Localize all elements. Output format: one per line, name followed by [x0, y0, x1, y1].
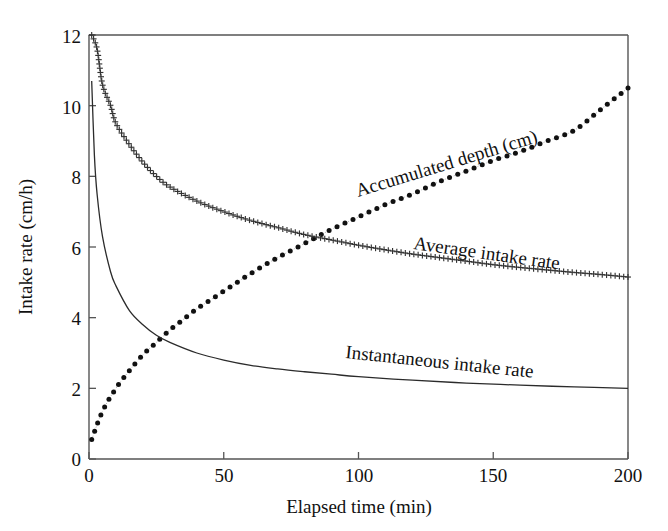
marker-dot	[303, 240, 308, 245]
y-tick-label-6: 6	[72, 238, 82, 259]
y-tick-label-12: 12	[62, 26, 81, 47]
marker-dot	[399, 196, 404, 201]
x-axis-title: Elapsed time (min)	[286, 496, 432, 518]
marker-dot	[132, 361, 137, 366]
marker-dot	[391, 199, 396, 204]
marker-dot	[257, 266, 262, 271]
marker-dot	[554, 135, 559, 140]
marker-dot	[95, 421, 100, 426]
marker-dot	[407, 193, 412, 198]
y-axis-title: Intake rate (cm/h)	[15, 179, 37, 315]
chart-background	[0, 0, 668, 531]
marker-dot	[327, 228, 332, 233]
marker-dot	[288, 248, 293, 253]
marker-dot	[92, 429, 97, 434]
marker-dot	[439, 178, 444, 183]
marker-dot	[272, 257, 277, 262]
marker-dot	[177, 320, 182, 325]
marker-dot	[447, 175, 452, 180]
marker-dot	[265, 261, 270, 266]
marker-dot	[374, 206, 379, 211]
marker-dot	[562, 132, 567, 137]
marker-dot	[626, 86, 631, 91]
marker-dot	[164, 331, 169, 336]
marker-dot	[138, 355, 143, 360]
marker-dot	[170, 325, 175, 330]
marker-dot	[382, 202, 387, 207]
marker-dot	[296, 244, 301, 249]
marker-dot	[206, 299, 211, 304]
marker-dot	[228, 285, 233, 290]
intake-rate-chart: 0 2 4 6 8 10 12 0 50 100 150 200 Elapsed…	[0, 0, 668, 531]
marker-dot	[250, 270, 255, 275]
marker-dot	[127, 368, 132, 373]
marker-dot	[578, 124, 583, 129]
marker-dot	[431, 182, 436, 187]
marker-dot	[102, 404, 107, 409]
chart-figure: 0 2 4 6 8 10 12 0 50 100 150 200 Elapsed…	[0, 0, 668, 531]
marker-dot	[151, 343, 156, 348]
marker-dot	[415, 189, 420, 194]
marker-dot	[584, 118, 589, 123]
x-tick-label-200: 200	[614, 465, 643, 486]
marker-dot	[220, 289, 225, 294]
marker-dot	[191, 309, 196, 314]
marker-dot	[358, 213, 363, 218]
marker-dot	[319, 232, 324, 237]
y-tick-label-10: 10	[62, 97, 81, 118]
marker-dot	[89, 437, 94, 442]
x-tick-label-100: 100	[345, 465, 374, 486]
x-tick-label-0: 0	[84, 465, 94, 486]
x-tick-label-50: 50	[215, 465, 234, 486]
marker-dot	[213, 294, 218, 299]
marker-dot	[612, 96, 617, 101]
marker-dot	[570, 129, 575, 134]
marker-dot	[455, 172, 460, 177]
marker-dot	[366, 210, 371, 215]
marker-dot	[242, 275, 247, 280]
x-tick-label-150: 150	[479, 465, 508, 486]
y-tick-label-4: 4	[72, 308, 82, 329]
marker-dot	[342, 221, 347, 226]
y-tick-label-0: 0	[72, 449, 82, 470]
marker-dot	[423, 186, 428, 191]
marker-dot	[116, 382, 121, 387]
marker-dot	[598, 107, 603, 112]
marker-dot	[121, 375, 126, 380]
marker-dot	[591, 113, 596, 118]
marker-dot	[350, 217, 355, 222]
marker-dot	[335, 224, 340, 229]
marker-dot	[144, 349, 149, 354]
marker-dot	[463, 169, 468, 174]
marker-dot	[280, 252, 285, 257]
marker-dot	[619, 91, 624, 96]
marker-dot	[98, 412, 103, 417]
marker-dot	[605, 102, 610, 107]
marker-dot	[198, 304, 203, 309]
marker-dot	[546, 138, 551, 143]
marker-dot	[106, 397, 111, 402]
marker-dot	[235, 280, 240, 285]
y-tick-label-8: 8	[72, 167, 82, 188]
y-tick-label-2: 2	[72, 379, 82, 400]
marker-dot	[111, 389, 116, 394]
marker-dot	[184, 314, 189, 319]
